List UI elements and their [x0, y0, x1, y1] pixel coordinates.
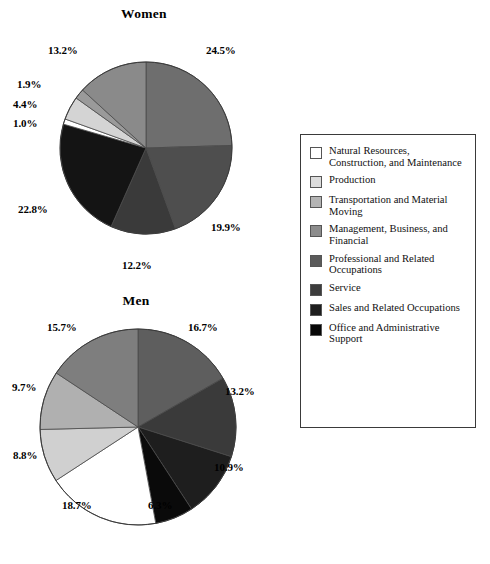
legend-item-label: Professional and Related Occupations: [329, 253, 469, 276]
men-slice-label-1: 16.7%: [188, 321, 218, 333]
women-slice-label-3: 12.2%: [122, 259, 152, 271]
legend-swatch-icon: [310, 304, 322, 316]
men-slice-label-5: 18.7%: [62, 499, 92, 511]
legend-item-label: Office and Administrative Support: [329, 322, 469, 345]
legend-item-label: Production: [329, 174, 376, 186]
men-slice-label-6: 8.8%: [13, 449, 37, 461]
legend-box: Natural Resources, Construction, and Mai…: [300, 134, 476, 428]
men-pie-graphic: [0, 285, 292, 564]
legend-item[interactable]: Office and Administrative Support: [310, 322, 469, 345]
legend-swatch-icon: [310, 225, 322, 237]
legend-swatch-icon: [310, 284, 322, 296]
legend-item[interactable]: Professional and Related Occupations: [310, 253, 469, 276]
legend-swatch-icon: [310, 255, 322, 267]
women-slice-label-7: 1.9%: [17, 78, 41, 90]
legend-item-label: Sales and Related Occupations: [329, 302, 460, 314]
men-slice-label-4: 6.3%: [148, 499, 172, 511]
legend-item-label: Service: [329, 282, 361, 294]
women-slice-label-6: 4.4%: [13, 98, 37, 110]
women-slice-label-8: 13.2%: [48, 44, 78, 56]
legend-swatch-icon: [310, 176, 322, 188]
men-slice-label-3: 10.9%: [214, 461, 244, 473]
legend-item-label: Management, Business, and Financial: [329, 223, 469, 246]
women-slice-label-4: 22.8%: [18, 203, 48, 215]
men-pie-chart-panel: Men 16.7% 13.2% 10.9% 6.3% 18.7% 8.8% 9.…: [0, 285, 292, 564]
legend-item[interactable]: Management, Business, and Financial: [310, 223, 469, 246]
legend-swatch-icon: [310, 147, 322, 159]
legend-item[interactable]: Production: [310, 174, 469, 188]
legend-item[interactable]: Service: [310, 282, 469, 296]
legend-item[interactable]: Sales and Related Occupations: [310, 302, 469, 316]
women-pie-graphic: [0, 0, 292, 285]
pie-slice[interactable]: [146, 62, 232, 148]
legend-swatch-icon: [310, 324, 322, 336]
legend-swatch-icon: [310, 196, 322, 208]
women-slice-label-5: 1.0%: [13, 117, 37, 129]
legend-item-label: Transportation and Material Moving: [329, 194, 469, 217]
women-pie-chart-panel: Women 24.5% 19.9% 12.2% 22.8% 1.0% 4.4% …: [0, 0, 292, 285]
legend-item[interactable]: Natural Resources, Construction, and Mai…: [310, 145, 469, 168]
women-slice-label-1: 24.5%: [206, 44, 236, 56]
men-slice-label-8: 15.7%: [47, 321, 77, 333]
men-slice-label-7: 9.7%: [12, 381, 36, 393]
men-slice-label-2: 13.2%: [225, 385, 255, 397]
legend-item-label: Natural Resources, Construction, and Mai…: [329, 145, 469, 168]
legend-list: Natural Resources, Construction, and Mai…: [310, 145, 469, 351]
women-slice-label-2: 19.9%: [211, 221, 241, 233]
legend-item[interactable]: Transportation and Material Moving: [310, 194, 469, 217]
